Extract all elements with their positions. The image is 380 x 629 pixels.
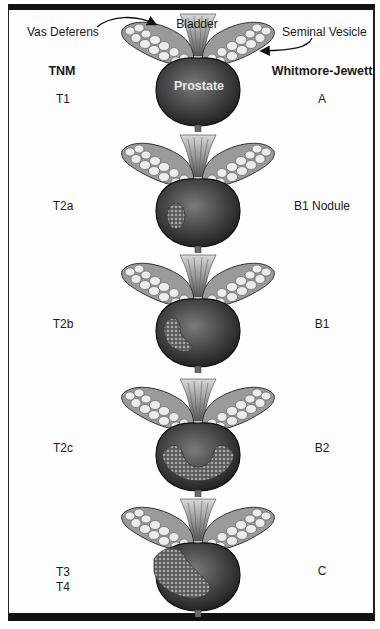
- vas-deferens-label: Vas Deferens: [27, 25, 99, 39]
- wj-stage-label: B1 Nodule: [294, 199, 350, 213]
- prostate-illustration-stage-5: [118, 497, 278, 617]
- wj-stage-label: C: [318, 564, 327, 578]
- tnm-stage-label: T1: [56, 92, 70, 106]
- bladder-label: Bladder: [176, 17, 217, 31]
- tnm-stage-label: T2a: [53, 199, 74, 213]
- wj-stage-label: A: [318, 92, 326, 106]
- prostate-illustration-stage-3: [118, 253, 278, 373]
- wj-stage-label: B2: [315, 441, 330, 455]
- tnm-stage-label: T3: [56, 565, 70, 579]
- seminal-vesicle-label: Seminal Vesicle: [282, 25, 367, 39]
- vas-deferens-arrow: [97, 18, 155, 27]
- tnm-stage-label-secondary: T4: [56, 580, 70, 594]
- whitmore-jewett-header: Whitmore-Jewett: [272, 64, 373, 78]
- tnm-stage-label: T2c: [53, 441, 73, 455]
- tnm-stage-label: T2b: [53, 317, 74, 331]
- tnm-header: TNM: [48, 64, 75, 78]
- seminal-vesicle-arrow: [262, 38, 312, 51]
- wj-stage-label: B1: [315, 317, 330, 331]
- prostate-label: Prostate: [174, 79, 224, 93]
- tumor-nodule: [167, 203, 185, 229]
- prostate-illustration-stage-2: [118, 133, 278, 253]
- prostate-illustration-stage-4: [118, 377, 278, 497]
